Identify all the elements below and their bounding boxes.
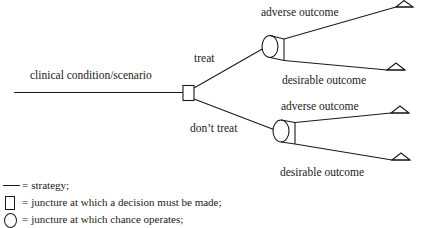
legend-text-strategy: strategy;: [31, 179, 69, 191]
legend-circle-icon: [3, 211, 21, 227]
branch-label-treat: treat: [194, 53, 214, 65]
legend-row-chance: = juncture at which chance operates;: [3, 210, 263, 227]
chance-node-lower-bottom-edge: [281, 142, 295, 144]
branch-label-dont-treat: don’t treat: [190, 123, 237, 135]
legend: = strategy; = juncture at which a decisi…: [3, 176, 263, 227]
legend-equals-3: =: [21, 213, 31, 225]
terminal-node-triangle-3: [391, 106, 409, 113]
outcome-label-adverse-top: adverse outcome: [261, 7, 339, 19]
outcome-label-desirable-bottom: desirable outcome: [280, 167, 364, 179]
legend-equals-2: =: [21, 196, 31, 208]
outcome-line-adverse-bottom: [295, 113, 391, 123]
root-scenario-label: clinical condition/scenario: [30, 70, 152, 82]
legend-row-decision: = juncture at which a decision must be m…: [3, 193, 263, 210]
outcome-label-desirable-top: desirable outcome: [282, 75, 366, 87]
terminal-node-triangle-4: [392, 153, 410, 160]
decision-node-square: [183, 86, 194, 101]
decision-tree-figure: clinical condition/scenario treat don’t …: [0, 0, 427, 228]
legend-square-icon: [3, 194, 21, 210]
chance-node-lower-ellipse: [273, 120, 289, 142]
outcome-line-desirable-bottom: [295, 144, 392, 160]
legend-line-icon: [3, 177, 21, 193]
legend-text-chance: juncture at which chance operates;: [31, 213, 183, 225]
terminal-node-triangle-1: [396, 1, 413, 8]
outcome-line-desirable-top: [284, 61, 387, 71]
terminal-node-triangle-2: [387, 63, 405, 70]
legend-row-strategy: = strategy;: [3, 176, 263, 193]
chance-node-upper-ellipse: [262, 36, 278, 58]
outcome-label-adverse-bottom: adverse outcome: [281, 101, 359, 113]
legend-equals-1: =: [21, 179, 31, 191]
chance-node-upper-bottom-edge: [270, 58, 284, 61]
legend-text-decision: juncture at which a decision must be mad…: [31, 196, 221, 208]
